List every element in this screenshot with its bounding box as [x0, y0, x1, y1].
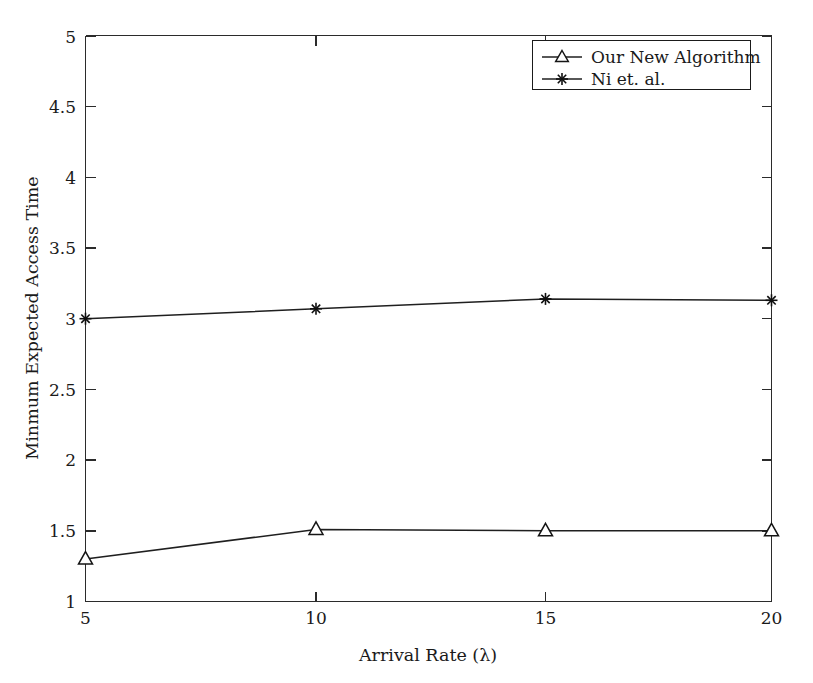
x-tick-label: 5	[80, 608, 91, 628]
y-tick-label: 1	[65, 592, 76, 612]
y-tick-labels: 1 1.5 2 2.5 3 3.5 4 4.5 5	[49, 27, 76, 612]
marker-triangle	[539, 523, 553, 536]
x-tick-label: 20	[761, 608, 783, 628]
y-tick-label: 1.5	[49, 521, 76, 541]
y-tick-label: 4	[65, 168, 76, 188]
marker-star	[540, 293, 552, 305]
series-line-ni-et-al	[86, 299, 772, 319]
y-tick-label: 2	[65, 450, 76, 470]
marker-triangle	[765, 523, 779, 536]
x-axis-title: Arrival Rate (λ)	[358, 645, 497, 665]
series-our-new-algorithm	[79, 522, 779, 564]
marker-star	[310, 303, 322, 315]
line-chart-svg: 1 1.5 2 2.5 3 3.5 4 4.5 5 5 10 15 20 Arr…	[0, 0, 813, 683]
chart-legend[interactable]: Our New Algorithm Ni et. al.	[533, 41, 761, 90]
x-axis-ticks-top	[316, 36, 546, 46]
y-tick-label: 5	[65, 27, 76, 47]
figure-canvas: 1 1.5 2 2.5 3 3.5 4 4.5 5 5 10 15 20 Arr…	[0, 0, 813, 683]
y-tick-label: 3.5	[49, 238, 76, 258]
x-axis-ticks	[86, 592, 772, 602]
series-line-our-new-algorithm	[86, 529, 772, 559]
y-tick-label: 2.5	[49, 380, 76, 400]
x-tick-label: 15	[535, 608, 557, 628]
axes-frame	[86, 36, 772, 602]
marker-star	[80, 313, 92, 325]
marker-triangle	[309, 522, 323, 535]
chart-figure-root: 1 1.5 2 2.5 3 3.5 4 4.5 5 5 10 15 20 Arr…	[0, 0, 813, 683]
y-axis-ticks-right	[762, 36, 772, 602]
y-tick-label: 3	[65, 309, 76, 329]
y-axis-title: Minmum Expected Access Time	[22, 176, 42, 459]
marker-star	[766, 294, 778, 306]
legend-label: Ni et. al.	[591, 69, 665, 89]
legend-marker-star-icon	[556, 73, 568, 85]
legend-label: Our New Algorithm	[591, 47, 761, 67]
y-tick-label: 4.5	[49, 97, 76, 117]
x-tick-label: 10	[305, 608, 327, 628]
series-ni-et-al	[80, 293, 778, 325]
x-tick-labels: 5 10 15 20	[80, 608, 782, 628]
